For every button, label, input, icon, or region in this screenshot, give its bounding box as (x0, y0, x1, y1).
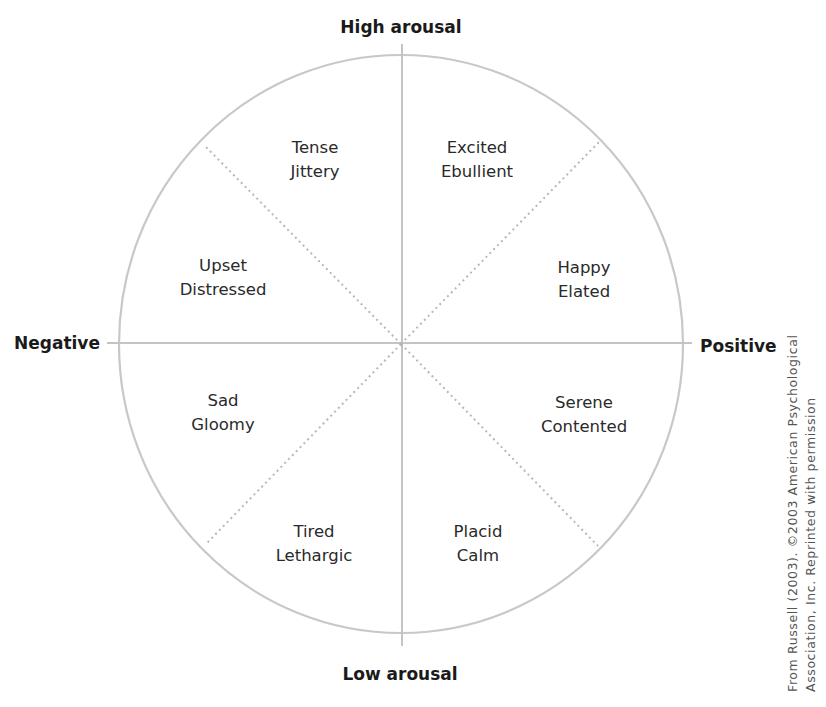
emotion-label: Jittery (289, 162, 339, 181)
segment-sad-gloomy: Sad Gloomy (191, 391, 255, 434)
emotion-label: Lethargic (276, 546, 353, 565)
emotion-label: Contented (541, 417, 627, 436)
diagonal-lower-right (401, 344, 598, 546)
segment-tense-jittery: Tense Jittery (289, 138, 339, 181)
segment-happy-elated: Happy Elated (557, 258, 610, 301)
emotion-label: Placid (454, 522, 503, 541)
emotion-label: Sad (207, 391, 238, 410)
copyright-credit: From Russell (2003). ©2003 American Psyc… (785, 335, 818, 692)
affect-circumplex-diagram: High arousal Low arousal Negative Positi… (0, 0, 826, 707)
segment-placid-calm: Placid Calm (454, 522, 503, 565)
segment-upset-distressed: Upset Distressed (180, 256, 267, 299)
axis-label-high-arousal: High arousal (340, 17, 461, 37)
diagonal-lower-left (206, 344, 401, 544)
emotion-label: Upset (199, 256, 247, 275)
emotion-label: Serene (555, 393, 613, 412)
emotion-label: Calm (457, 546, 499, 565)
emotion-label: Tired (292, 522, 334, 541)
emotion-label: Elated (558, 282, 610, 301)
emotion-label: Distressed (180, 280, 267, 299)
axis-label-low-arousal: Low arousal (342, 664, 457, 684)
credit-line-2: Association, Inc. Reprinted with permiss… (803, 397, 818, 692)
segment-excited-ebullient: Excited Ebullient (441, 138, 514, 181)
credit-line-1: From Russell (2003). ©2003 American Psyc… (785, 335, 800, 692)
axis-label-negative: Negative (14, 333, 100, 353)
segment-serene-contented: Serene Contented (541, 393, 627, 436)
axis-label-positive: Positive (700, 336, 777, 356)
segment-tired-lethargic: Tired Lethargic (276, 522, 353, 565)
emotion-label: Tense (291, 138, 339, 157)
emotion-label: Ebullient (441, 162, 514, 181)
emotion-label: Gloomy (191, 415, 255, 434)
emotion-label: Happy (557, 258, 610, 277)
emotion-label: Excited (447, 138, 508, 157)
